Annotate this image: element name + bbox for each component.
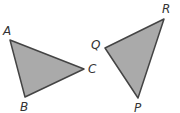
vertex-label-c: C (88, 62, 97, 76)
triangle-abc (10, 40, 84, 97)
vertex-label-r: R (162, 2, 170, 16)
diagram: A B C Q R P (0, 0, 180, 113)
vertex-label-a: A (2, 24, 11, 38)
triangle-pqr (105, 19, 164, 98)
vertex-label-b: B (20, 100, 28, 113)
vertex-label-p: P (134, 101, 142, 113)
vertex-label-q: Q (91, 38, 100, 52)
